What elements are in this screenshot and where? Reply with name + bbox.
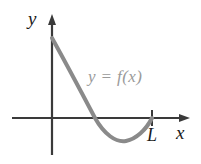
x-axis-label: x	[176, 123, 184, 142]
function-curve	[52, 38, 152, 141]
curve-equation-label: y = f(x)	[88, 68, 142, 85]
y-axis-label: y	[28, 9, 36, 28]
x-axis-arrow-icon	[179, 114, 190, 122]
tick-label-L: L	[147, 126, 157, 144]
function-graph-figure: y x L y = f(x)	[0, 0, 201, 164]
y-axis-arrow-icon	[48, 14, 56, 25]
